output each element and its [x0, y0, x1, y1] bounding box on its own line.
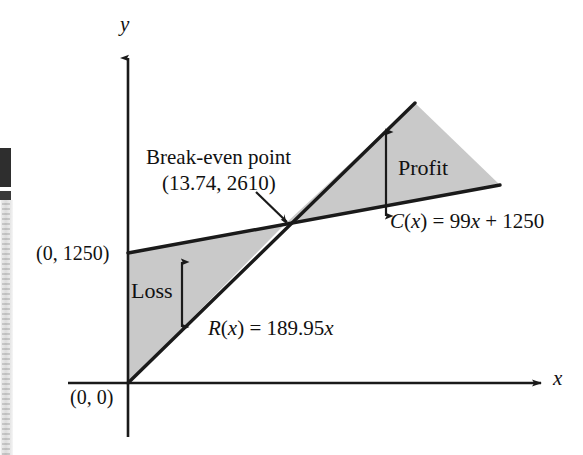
cost-function-equation: C(x) = 99x + 1250: [390, 211, 544, 232]
cost-fn-var: x: [471, 209, 480, 233]
cost-fn-eq: = 99: [427, 209, 470, 233]
scan-artifact-dark-strip: [0, 191, 11, 200]
y-axis-label: y: [120, 14, 129, 35]
origin-point-label: (0, 0): [70, 387, 113, 407]
cost-fn-tail: + 1250: [480, 209, 544, 233]
cost-fn-name: C: [390, 209, 404, 233]
scan-artifact-dark-block: [0, 148, 11, 187]
break-even-figure: y x (0, 0) (0, 1250) Loss Profit Break-e…: [0, 0, 583, 455]
profit-region-label: Profit: [398, 157, 448, 179]
revenue-fn-eq: = 189.95: [244, 316, 324, 340]
revenue-fn-name: R: [208, 316, 221, 340]
breakeven-callout-leader: [256, 192, 287, 222]
revenue-fn-var: x: [324, 316, 333, 340]
scan-artifact-gray-band: [0, 200, 13, 455]
loss-region-label: Loss: [131, 280, 173, 302]
revenue-function-equation: R(x) = 189.95x: [208, 318, 334, 339]
y-intercept-label: (0, 1250): [36, 243, 109, 263]
cost-fn-arg: x: [411, 209, 420, 233]
breakeven-point-title: Break-even point: [146, 147, 291, 168]
breakeven-point-coords: (13.74, 2610): [162, 173, 276, 194]
revenue-fn-arg: x: [228, 316, 237, 340]
x-axis-label: x: [553, 368, 562, 389]
